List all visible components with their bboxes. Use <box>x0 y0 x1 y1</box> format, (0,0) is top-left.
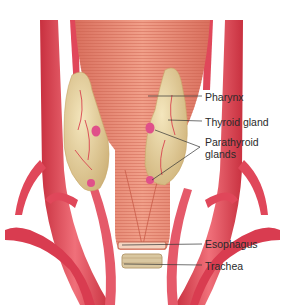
label-trachea: Trachea <box>205 260 243 272</box>
label-parathyroid-glands: glands <box>205 148 236 160</box>
label-thyroid-gland: Thyroid gland <box>205 116 269 128</box>
label-esophagus: Esophagus <box>205 238 258 250</box>
label-pharynx: Pharynx <box>205 91 244 103</box>
label-parathyroid: Parathyroid <box>205 136 259 148</box>
